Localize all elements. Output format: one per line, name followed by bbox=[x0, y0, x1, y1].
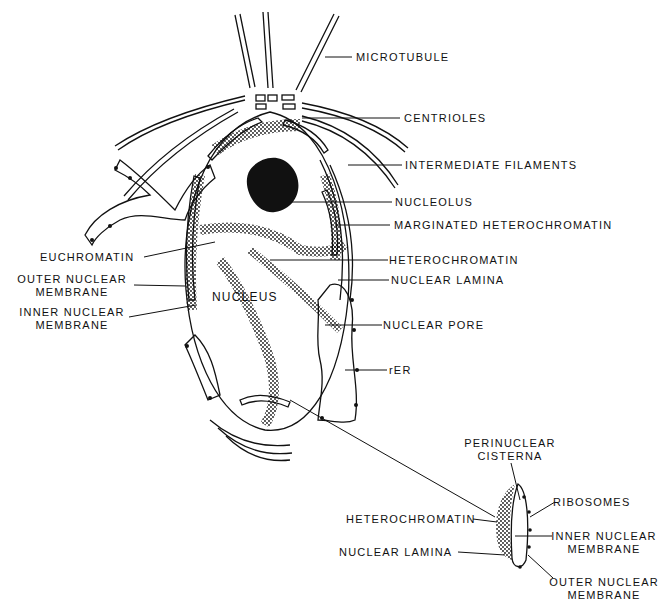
label-line: INNER NUCLEAR bbox=[16, 306, 128, 319]
label-line: INNER NUCLEAR bbox=[548, 530, 660, 543]
label-rer: rER bbox=[389, 364, 412, 377]
nucleus bbox=[185, 112, 349, 430]
label-line: PERINUCLEAR bbox=[460, 437, 560, 450]
microtubules bbox=[235, 12, 339, 92]
label-outer-nuclear-membrane: OUTER NUCLEAR MEMBRANE bbox=[16, 273, 128, 299]
inset-membrane-detail bbox=[496, 484, 532, 569]
label-line: OUTER NUCLEAR bbox=[16, 273, 128, 286]
label-line: CISTERNA bbox=[460, 450, 560, 463]
label-inner-nuclear-membrane: INNER NUCLEAR MEMBRANE bbox=[16, 306, 128, 332]
label-heterochromatin: HETEROCHROMATIN bbox=[389, 254, 519, 267]
label-line: MEMBRANE bbox=[16, 319, 128, 332]
label-line: MEMBRANE bbox=[16, 286, 128, 299]
label-perinuclear-cisterna: PERINUCLEAR CISTERNA bbox=[460, 437, 560, 463]
label-intermediate-filaments: INTERMEDIATE FILAMENTS bbox=[405, 159, 577, 172]
label-line: MEMBRANE bbox=[548, 543, 660, 556]
label-centrioles: CENTRIOLES bbox=[404, 112, 486, 125]
label-nucleus: NUCLEUS bbox=[212, 291, 278, 304]
label-line: MEMBRANE bbox=[548, 589, 660, 602]
label-nuclear-lamina: NUCLEAR LAMINA bbox=[391, 274, 504, 287]
label-inset-nuclear-lamina: NUCLEAR LAMINA bbox=[339, 546, 452, 559]
label-inset-inner-nuclear-membrane: INNER NUCLEAR MEMBRANE bbox=[548, 530, 660, 556]
label-marginated-heterochromatin: MARGINATED HETEROCHROMATIN bbox=[394, 219, 612, 232]
label-inset-outer-nuclear-membrane: OUTER NUCLEAR MEMBRANE bbox=[548, 576, 660, 602]
label-line: OUTER NUCLEAR bbox=[548, 576, 660, 589]
label-inset-ribosomes: RIBOSOMES bbox=[553, 496, 630, 509]
centrioles bbox=[256, 95, 295, 109]
label-euchromatin: EUCHROMATIN bbox=[40, 251, 134, 264]
label-inset-heterochromatin: HETEROCHROMATIN bbox=[346, 513, 476, 526]
label-nuclear-pore: NUCLEAR PORE bbox=[383, 319, 484, 332]
cytoplasmic-arcs bbox=[210, 420, 292, 461]
label-microtubule: MICROTUBULE bbox=[356, 51, 449, 64]
label-nucleolus: NUCLEOLUS bbox=[395, 196, 473, 209]
leader-lines bbox=[129, 57, 555, 578]
